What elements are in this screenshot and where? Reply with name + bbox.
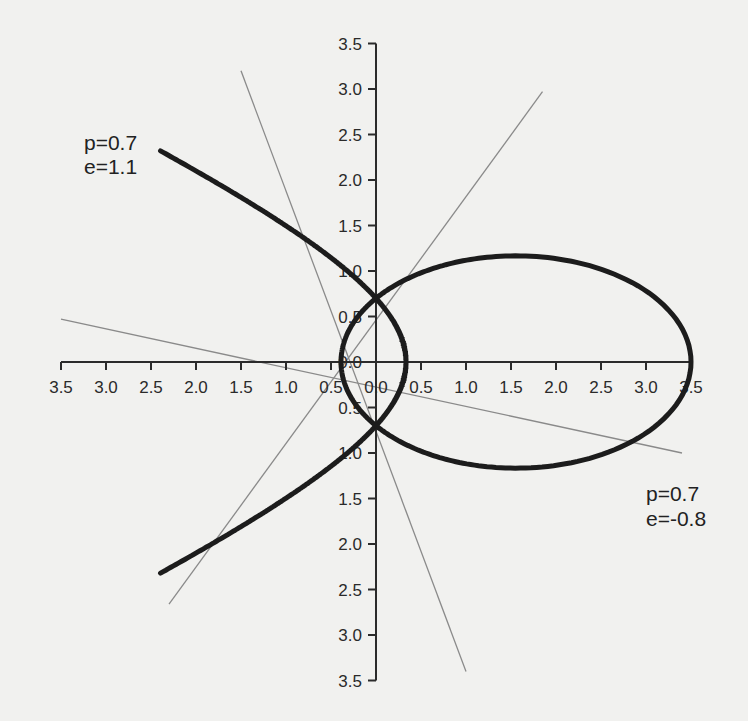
x-tick-label: 0.5 <box>319 378 343 397</box>
x-tick-label: 1.0 <box>274 378 298 397</box>
x-tick-label: 0.5 <box>409 378 433 397</box>
axes: 3.53.02.52.01.51.00.50.00.51.01.52.02.53… <box>49 35 703 691</box>
reference-line <box>169 92 543 604</box>
y-tick-label: 1.5 <box>338 490 362 509</box>
x-tick-label: 3.0 <box>634 378 658 397</box>
hyperbola-p-label: p=0.7 <box>84 131 137 154</box>
y-tick-label: 3.5 <box>338 35 362 54</box>
y-tick-label: 1.5 <box>338 217 362 236</box>
x-tick-label: 1.0 <box>454 378 478 397</box>
ellipse-e-label: e=-0.8 <box>646 507 706 530</box>
y-tick-label: 2.5 <box>338 126 362 145</box>
ellipse-annotation: p=0.7 e=-0.8 <box>646 482 706 530</box>
reference-lines <box>61 71 682 672</box>
x-tick-label: 1.5 <box>499 378 523 397</box>
x-tick-label: 2.5 <box>589 378 613 397</box>
y-tick-label: 2.0 <box>338 535 362 554</box>
y-tick-label: 3.0 <box>338 80 362 99</box>
y-tick-label: 2.0 <box>338 171 362 190</box>
y-tick-label: 3.5 <box>338 672 362 691</box>
x-tick-label: 0.0 <box>364 378 388 397</box>
polar-conic-chart: 3.53.02.52.01.51.00.50.00.51.01.52.02.53… <box>0 0 748 721</box>
x-tick-label: 2.5 <box>139 378 163 397</box>
ellipse-p-label: p=0.7 <box>646 482 699 505</box>
x-tick-label: 1.5 <box>229 378 253 397</box>
x-tick-label: 2.0 <box>184 378 208 397</box>
y-tick-label: 2.5 <box>338 581 362 600</box>
x-tick-label: 3.5 <box>49 378 73 397</box>
x-tick-label: 3.0 <box>94 378 118 397</box>
x-tick-label: 2.0 <box>544 378 568 397</box>
hyperbola-e-label: e=1.1 <box>84 155 137 178</box>
y-tick-label: 3.0 <box>338 626 362 645</box>
hyperbola-annotation: p=0.7 e=1.1 <box>84 131 137 178</box>
